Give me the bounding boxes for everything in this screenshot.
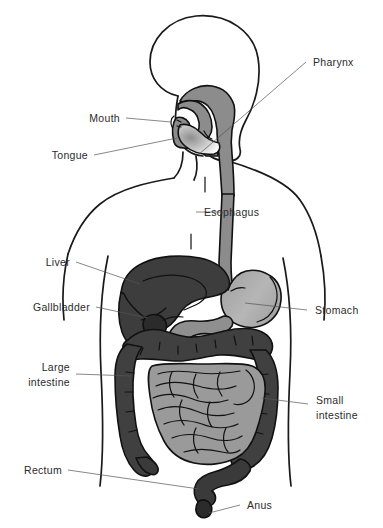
ascending-colon-shape	[115, 344, 154, 476]
anatomy-illustration: Pharynx Mouth Tongue Esophagus Liver Gal…	[0, 0, 383, 528]
label-small-intestine-line2: intestine	[316, 409, 358, 421]
neck-left-outline	[174, 152, 183, 178]
label-large-intestine-line1: Large	[42, 361, 70, 373]
leader-mouth	[126, 118, 171, 122]
label-stomach: Stomach	[315, 304, 359, 316]
upper-digestive-tract	[171, 86, 235, 196]
leader-anus	[209, 505, 240, 513]
label-gallbladder: Gallbladder	[33, 301, 90, 313]
label-pharynx: Pharynx	[313, 56, 354, 68]
leader-rectum	[68, 470, 199, 489]
small-intestine-group	[148, 364, 265, 465]
label-rectum: Rectum	[24, 464, 62, 476]
neck-right-outline	[194, 156, 197, 180]
label-tongue: Tongue	[52, 149, 88, 161]
label-esophagus: Esophagus	[204, 206, 259, 218]
anus-shape	[196, 500, 212, 518]
torso-left-outline	[100, 256, 108, 486]
leader-tongue	[94, 138, 177, 155]
label-mouth: Mouth	[89, 112, 120, 124]
label-small-intestine-line1: Small	[316, 394, 344, 406]
label-large-intestine-line2: intestine	[28, 376, 70, 388]
shoulder-left-outline	[68, 178, 174, 254]
torso-right-outline	[283, 258, 291, 486]
label-liver: Liver	[46, 256, 70, 268]
label-anus: Anus	[247, 499, 272, 511]
digestive-system-diagram: Pharynx Mouth Tongue Esophagus Liver Gal…	[0, 0, 383, 528]
